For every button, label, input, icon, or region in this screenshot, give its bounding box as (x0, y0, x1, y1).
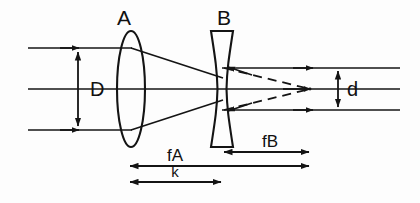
input-diameter-label: D (90, 78, 104, 100)
separation-label: k (171, 163, 179, 180)
focal-b-label: fB (262, 132, 278, 151)
lens-a-label: A (117, 6, 131, 29)
optics-diagram: A B D d fB fA k (0, 0, 420, 203)
virtual-ray-bottom (224, 89, 310, 110)
virtual-ray-top (224, 68, 310, 89)
virtual-focal-point (309, 88, 312, 91)
output-diameter-label: d (347, 78, 358, 100)
optics-diagram-canvas: A B D d fB fA k (0, 0, 420, 203)
lens-b-label: B (217, 6, 231, 29)
